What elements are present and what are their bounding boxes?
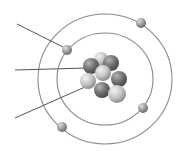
electron-outer-bottom-left bbox=[57, 122, 67, 132]
electron-outer-top-right bbox=[136, 18, 146, 28]
label-line-electron bbox=[17, 24, 63, 47]
neutron-sphere bbox=[94, 82, 110, 98]
proton-sphere bbox=[80, 73, 96, 89]
proton-sphere bbox=[108, 85, 126, 103]
leader-lines bbox=[15, 24, 87, 118]
proton-sphere bbox=[95, 65, 111, 81]
electron-inner-top-left bbox=[62, 45, 72, 55]
neutron-sphere bbox=[111, 71, 127, 87]
atom-diagram bbox=[0, 0, 183, 151]
label-line-proton bbox=[15, 87, 85, 118]
label-line-neutron bbox=[15, 68, 87, 70]
electron-inner-bottom-right bbox=[138, 103, 148, 113]
nucleus bbox=[80, 52, 127, 103]
